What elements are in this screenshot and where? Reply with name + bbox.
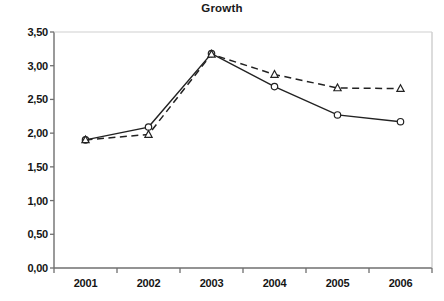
x-axis-tick-label: 2004 (242, 277, 308, 289)
data-point-marker (145, 131, 152, 138)
y-axis-tick-label: 2,00 (2, 127, 48, 139)
data-point-marker (271, 71, 278, 78)
data-point-marker (271, 83, 277, 89)
x-axis-tick-label: 2003 (179, 277, 245, 289)
data-point-marker (145, 124, 151, 130)
y-axis-tick-label: 2,50 (2, 93, 48, 105)
x-axis-tick-label: 2002 (116, 277, 182, 289)
y-axis-tick-label: 3,50 (2, 26, 48, 38)
x-axis-tick-label: 2005 (305, 277, 371, 289)
series-line-2 (86, 54, 401, 140)
y-axis-tick-label: 1,00 (2, 195, 48, 207)
y-axis-tick-label: 0,50 (2, 228, 48, 240)
x-axis-tick-label: 2006 (368, 277, 434, 289)
x-axis-tick-label: 2001 (53, 277, 119, 289)
y-axis-tick-label: 3,00 (2, 60, 48, 72)
growth-line-chart: Growth 0,000,501,001,502,002,503,003,50 … (0, 0, 444, 301)
plot-area (0, 0, 444, 301)
y-axis-tick-label: 1,50 (2, 161, 48, 173)
series-line-1 (86, 54, 401, 140)
y-axis-tick-label: 0,00 (2, 262, 48, 274)
data-point-marker (397, 118, 403, 124)
data-point-marker (334, 112, 340, 118)
data-point-marker (397, 85, 404, 92)
